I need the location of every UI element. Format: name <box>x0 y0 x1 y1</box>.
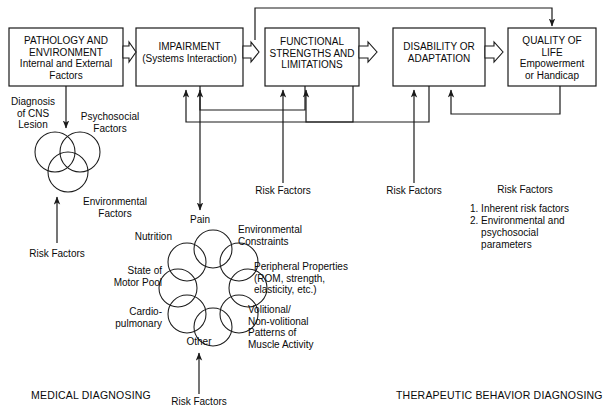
box-label-pathology: PATHOLOGY AND ENVIRONMENT Internal and E… <box>9 35 123 81</box>
label-other: Other <box>175 336 223 348</box>
label-risk-factors-disability: Risk Factors <box>374 185 454 197</box>
label-risk-factors-flower: Risk Factors <box>159 396 239 408</box>
venn-diagram <box>35 132 100 192</box>
risk-factors-legend-item-2-line3: parameters <box>470 239 600 251</box>
label-risk-factors-venn: Risk Factors <box>17 248 97 260</box>
box-label-functional: FUNCTIONAL STRENGTHS AND LIMITATIONS <box>265 36 359 71</box>
block-arrow-impairment-to-functional <box>243 42 259 62</box>
label-diagnosis-of-cns-lesion: Diagnosis of CNS Lesion <box>2 96 64 131</box>
feedback-quality-to-functional-lower <box>451 86 560 114</box>
label-environmental-factors: Environmental Factors <box>76 196 154 219</box>
footer-therapeutic-behavior-diagnosing: THERAPEUTIC BEHAVIOR DIAGNOSING <box>396 389 603 401</box>
feedback-functional-to-impairment <box>200 86 305 110</box>
flower-petal-pain <box>194 230 232 268</box>
block-arrow-pathology-to-impairment <box>123 42 136 62</box>
footer-medical-diagnosing: MEDICAL DIAGNOSING <box>31 389 151 401</box>
flower-petal-nutrition <box>168 243 206 281</box>
risk-factors-legend-item-2: 2. Environmental and <box>470 215 600 227</box>
diagram-canvas: PATHOLOGY AND ENVIRONMENT Internal and E… <box>0 0 605 410</box>
label-cardiopulmonary: Cardio- pulmonary <box>90 306 162 329</box>
block-arrow-disability-to-quality <box>485 42 503 62</box>
flower-petal-environmental-constraints <box>220 243 258 281</box>
label-state-of-motor-pool: State of Motor Pool <box>86 265 162 288</box>
block-arrow-functional-to-disability <box>359 42 377 62</box>
box-label-quality: QUALITY OF LIFE Empowerment or Handicap <box>508 35 596 81</box>
feedback-disability-to-impairment <box>186 86 353 122</box>
label-peripheral-properties: Peripheral Properties (ROM, strength, el… <box>254 261 358 296</box>
flower-petal-state-of-motor-pool <box>159 269 197 307</box>
risk-factors-legend-item-2-line2: psychosocial <box>470 227 600 239</box>
box-label-impairment: IMPAIRMENT (Systems Interaction) <box>136 41 243 64</box>
label-nutrition: Nutrition <box>96 231 172 243</box>
label-risk-factors-functional: Risk Factors <box>243 185 323 197</box>
label-pain: Pain <box>178 214 222 226</box>
risk-factors-legend-item-1: 1. Inherent risk factors <box>470 203 600 215</box>
box-label-disability: DISABILITY OR ADAPTATION <box>393 41 485 64</box>
risk-factors-legend-heading: Risk Factors <box>470 184 580 196</box>
label-volitional-patterns: Volitional/ Non-volitional Patterns of M… <box>248 304 334 350</box>
label-psychosocial-factors: Psychosocial Factors <box>72 111 148 134</box>
flower-petal-cardiopulmonary <box>168 295 206 333</box>
label-environmental-constraints: Environmental Constraints <box>238 224 330 247</box>
feedback-quality-to-disability <box>306 86 429 122</box>
